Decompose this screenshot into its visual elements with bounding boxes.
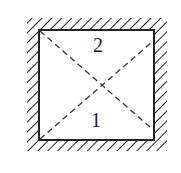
label-region-1: 1 (91, 109, 101, 131)
label-region-2: 2 (93, 34, 103, 56)
enclosure-diagram: 2 1 (0, 0, 181, 173)
